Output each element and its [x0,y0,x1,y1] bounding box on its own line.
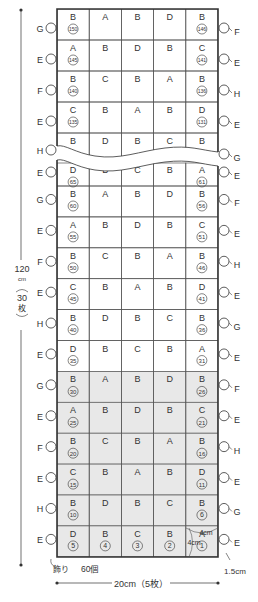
tile-type-label: B [70,74,76,84]
tile-type-label: B [134,12,140,22]
tile-type-label: B [134,251,140,261]
piece-number: 41 [199,296,206,302]
tile-type-label: B [134,436,140,446]
ring-right [219,287,229,297]
piece-number: 46 [199,265,206,271]
tile-type-label: C [199,220,206,230]
ring-letter: F [37,257,43,267]
ring-letter: E [234,415,240,425]
tile-type-label: D [134,220,141,230]
ring-right [219,85,229,95]
tile-type-label: D [199,282,206,292]
piece-number: 40 [70,327,77,333]
tile-row: B150ABDB146 [57,9,218,40]
ring-left [46,442,56,452]
height-unit: cm [18,276,26,282]
tile-type-label: C [134,344,141,354]
tile-type-label: B [134,136,140,146]
tile-row: C15BABD11 [57,464,218,495]
tile-type-label: A [167,251,173,261]
piece-number: 61 [199,179,206,185]
ring-letter: H [234,446,241,456]
tile-row: B50CBAB46 [57,248,218,279]
piece-number: 2 [168,542,172,549]
tile-type-label: B [167,344,173,354]
tile-type-label: A [102,374,108,384]
ring-left [46,225,56,235]
piece-number: 65 [70,179,77,185]
tile-type-label: A [134,467,140,477]
piece-number: 30 [70,389,77,395]
piece-number: 15 [70,482,77,488]
tile-type-label: D [102,136,109,146]
tile-type-label: D [166,374,173,384]
tile-type-label: B [102,220,108,230]
tile-type-label: A [102,12,108,22]
piece-number: 20 [70,451,77,457]
tile-row: C135BABD131 [57,102,218,133]
ring-letter: G [36,195,43,205]
piece-number: 55 [70,234,77,240]
tile-type-label: A [167,74,173,84]
piece-number: 45 [70,296,77,302]
tile-type-label: C [70,467,77,477]
ring-letter: E [37,350,43,360]
tile-type-label: C [166,498,173,508]
piece-number: 16 [199,451,206,457]
ring-letter: H [37,319,44,329]
tile-type-label: C [70,105,77,115]
ring-left [46,54,56,64]
height-value: 120 [14,264,29,274]
ring-right [219,503,229,513]
ring-letter: E [234,171,240,181]
tile-type-label: B [70,374,76,384]
ring-letter: E [234,229,240,239]
tile-type-label: C [199,43,206,53]
ring-left [46,194,56,204]
piece-number: 150 [69,26,78,32]
tile-row: B10DBCB6 [57,495,218,526]
tile-type-label: B [70,12,76,22]
tile-type-label: B [199,374,205,384]
break-line-top [57,146,218,157]
tile-type-label: C [102,436,109,446]
ring-left [46,380,56,390]
tile-type-label: B [199,189,205,199]
ring-right [219,318,229,328]
ornament-label: 飾り [53,564,69,574]
ring-left [46,145,56,155]
tile-type-label: B [167,529,173,539]
piece-number: 36 [199,327,206,333]
piece-number: 6 [200,511,204,518]
tile-type-label: B [70,136,76,146]
tile-type-label: B [199,436,205,446]
tile-type-label: C [102,74,109,84]
ring-right [219,167,229,177]
ring-letter: E [234,477,240,487]
tile-type-label: A [167,436,173,446]
tile-type-label: B [70,251,76,261]
ring-right [219,149,229,159]
piece-number: 11 [199,482,206,488]
ring-letter: E [37,288,43,298]
ring-letter: H [37,146,44,156]
tile-type-label: B [102,529,108,539]
ornament-count: 60個 [81,564,99,574]
tile-type-label: C [166,313,173,323]
tile-row: B60ABDB56 [57,186,218,217]
tile-type-label: A [70,220,76,230]
ring-right [219,23,229,33]
tile-type-label: A [70,43,76,53]
tile-size-v: 4cm [187,539,200,546]
tile-type-label: D [70,529,77,539]
ring-letter: E [37,535,43,545]
tile-type-label: B [102,43,108,53]
ring-right [219,473,229,483]
tile-row: C45BABD41 [57,279,218,310]
ring-left [46,411,56,421]
ring-size: 1.5cm [224,567,246,576]
tile-row: B40DBCB36 [57,310,218,341]
tile-type-label: D [199,467,206,477]
tile-type-label: B [70,498,76,508]
ring-letter: E [37,55,43,65]
